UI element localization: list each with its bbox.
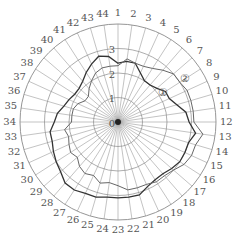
- axis-label: 28: [41, 197, 54, 208]
- axis-label: 23: [112, 224, 125, 235]
- axis-label: 7: [197, 45, 203, 56]
- axis-label: 33: [4, 131, 17, 142]
- series-line-1: [50, 56, 196, 198]
- series-labels: ①②: [158, 72, 190, 99]
- axis-label: 30: [21, 174, 34, 185]
- axis-label: 32: [8, 146, 21, 157]
- radial-tick-label: 0: [109, 118, 115, 129]
- axis-label: 26: [67, 214, 80, 225]
- axis-label: 25: [81, 219, 94, 230]
- axis-label: 10: [216, 85, 229, 96]
- axis-label: 35: [4, 100, 17, 111]
- axis-label: 29: [30, 186, 43, 197]
- radial-tick-label: 3: [109, 44, 115, 55]
- axis-label: 1: [115, 7, 121, 18]
- axis-label: 11: [219, 100, 232, 111]
- axis-label: 3: [145, 12, 151, 23]
- axis-label: 42: [67, 17, 80, 28]
- axis-label: 21: [142, 219, 155, 230]
- center-point: [115, 119, 121, 125]
- axis-label: 22: [127, 223, 140, 234]
- axis-label: 17: [193, 186, 206, 197]
- axis-label: 2: [130, 8, 136, 19]
- axis-label: 36: [8, 85, 21, 96]
- series-tag-1: ①: [158, 86, 168, 99]
- axis-label: 8: [206, 57, 212, 68]
- axis-label: 34: [3, 116, 16, 127]
- axis-label: 14: [216, 146, 229, 157]
- axis-label: 13: [219, 131, 232, 142]
- axis-label: 44: [96, 8, 109, 19]
- axis-label: 5: [173, 24, 179, 35]
- radial-tick-label: 2: [109, 69, 115, 80]
- axis-label: 15: [210, 160, 223, 171]
- axis-label: 19: [170, 207, 183, 218]
- axis-label: 39: [30, 45, 43, 56]
- axis-label: 38: [21, 57, 34, 68]
- axis-label: 43: [81, 12, 94, 23]
- axis-label: 18: [183, 197, 196, 208]
- axis-label: 6: [186, 34, 192, 45]
- axis-label: 4: [160, 17, 166, 28]
- axis-label: 24: [96, 223, 109, 234]
- axis-label: 16: [203, 174, 216, 185]
- axis-label: 12: [220, 116, 233, 127]
- axis-label: 20: [157, 214, 170, 225]
- axis-label: 27: [53, 207, 66, 218]
- axis-label: 31: [13, 160, 26, 171]
- axis-label: 41: [53, 24, 66, 35]
- radial-tick-label: 1: [109, 93, 115, 104]
- axis-label: 37: [13, 71, 26, 82]
- radar-grid: [20, 24, 216, 220]
- radar-plot: 1234567891011121314151617181920212223242…: [0, 0, 236, 243]
- series-tag-2: ②: [180, 72, 190, 85]
- radar-chart: 1234567891011121314151617181920212223242…: [0, 0, 236, 243]
- axis-label: 9: [213, 71, 219, 82]
- axis-label: 40: [41, 34, 54, 45]
